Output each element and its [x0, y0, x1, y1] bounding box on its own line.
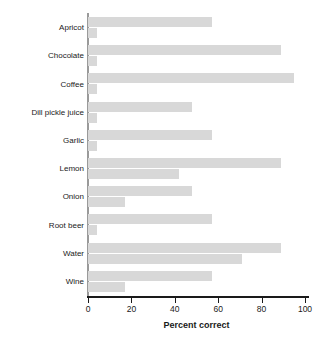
bar [88, 73, 294, 83]
x-axis-tick-label: 20 [127, 304, 136, 314]
x-axis-title: Percent correct [88, 320, 305, 330]
x-axis-tick-label: 0 [86, 304, 91, 314]
bar-group [88, 155, 305, 183]
bar-group [88, 211, 305, 239]
y-axis-tick-label: Garlic [0, 136, 84, 146]
x-axis-tick [175, 298, 176, 303]
bar [88, 282, 125, 292]
y-axis-tick-label: Wine [0, 277, 84, 287]
bar-group [88, 14, 305, 42]
x-axis-tick [262, 298, 263, 303]
y-axis-tick-label: Water [0, 249, 84, 259]
bar-group [88, 42, 305, 70]
bar [88, 113, 97, 123]
y-axis-tick-label: Root beer [0, 221, 84, 231]
bar-chart: ApricotChocolateCoffeeDill pickle juiceG… [0, 0, 328, 347]
plot-area [88, 14, 305, 296]
x-axis-tick-label: 60 [213, 304, 222, 314]
x-axis-ticks: 020406080100 [88, 298, 305, 318]
bar-group [88, 127, 305, 155]
bar [88, 56, 97, 66]
bar-group [88, 268, 305, 296]
bar [88, 45, 281, 55]
bar [88, 243, 281, 253]
y-axis-tick-label: Onion [0, 192, 84, 202]
y-axis-labels: ApricotChocolateCoffeeDill pickle juiceG… [0, 14, 84, 296]
bar [88, 141, 97, 151]
bar [88, 84, 97, 94]
bar [88, 17, 212, 27]
y-axis-tick-label: Apricot [0, 23, 84, 33]
bar [88, 186, 192, 196]
bar-group [88, 99, 305, 127]
x-axis-tick [131, 298, 132, 303]
x-axis-tick-label: 100 [298, 304, 312, 314]
bar [88, 130, 212, 140]
x-axis-tick-label: 80 [257, 304, 266, 314]
x-axis-tick [88, 298, 89, 303]
bar [88, 169, 179, 179]
bar [88, 158, 281, 168]
bar [88, 28, 97, 38]
bar-group [88, 183, 305, 211]
bar [88, 102, 192, 112]
y-axis-tick-label: Chocolate [0, 51, 84, 61]
bar [88, 254, 242, 264]
y-axis-tick-label: Lemon [0, 164, 84, 174]
x-axis-tick-label: 40 [170, 304, 179, 314]
bar [88, 197, 125, 207]
y-axis-tick-label: Coffee [0, 80, 84, 90]
bar-group [88, 70, 305, 98]
x-axis-tick [218, 298, 219, 303]
bar [88, 214, 212, 224]
y-axis-tick-label: Dill pickle juice [0, 108, 84, 118]
bar [88, 225, 97, 235]
x-axis-tick [305, 298, 306, 303]
bar [88, 271, 212, 281]
bar-group [88, 240, 305, 268]
